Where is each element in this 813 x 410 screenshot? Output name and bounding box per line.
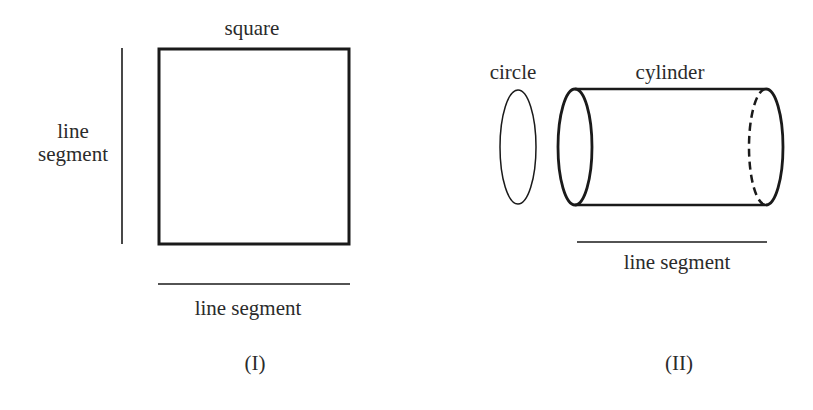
panel-i-shapes [122, 48, 350, 284]
vertical-segment-label-line1: line [57, 120, 89, 142]
panel-ii-shapes [500, 89, 783, 242]
horizontal-segment-label-i: line segment [195, 297, 302, 319]
circle-shape [500, 90, 536, 204]
cylinder-right-base-front [766, 89, 783, 205]
panel-i-caption: (I) [245, 352, 266, 374]
square-shape [159, 49, 349, 244]
cylinder-label: cylinder [636, 61, 705, 83]
circle-label: circle [490, 61, 537, 83]
cylinder-left-base [558, 89, 592, 205]
cylinder-right-base-hidden [749, 89, 766, 205]
square-label: square [225, 17, 280, 39]
vertical-segment-label-line2: segment [38, 143, 108, 165]
horizontal-segment-label-ii: line segment [624, 251, 731, 273]
cylinder-shape [558, 89, 783, 205]
panel-ii-caption: (II) [665, 352, 693, 374]
